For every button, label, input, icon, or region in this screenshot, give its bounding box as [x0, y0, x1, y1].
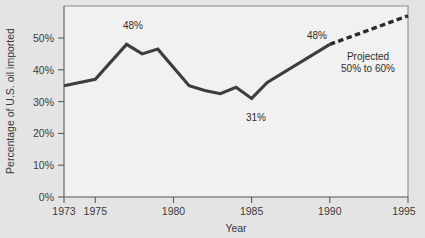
x-tick-label-1980: 1980 — [162, 205, 186, 217]
y-axis-title: Percentage of U.S. oil imported — [4, 28, 16, 174]
x-axis-title: Year — [225, 222, 247, 234]
y-tick-label-30: 30% — [33, 96, 54, 108]
y-tick-label-0: 0% — [39, 191, 54, 203]
x-tick-label-1975: 1975 — [84, 205, 108, 217]
x-tick-label-1990: 1990 — [318, 205, 342, 217]
x-tick-label-1973: 1973 — [52, 205, 76, 217]
line-chart: 0% 10% 20% 30% 40% 50% 1973 1975 1980 19… — [0, 0, 425, 238]
chart-figure: 0% 10% 20% 30% 40% 50% 1973 1975 1980 19… — [0, 0, 425, 238]
peak-1977-label: 48% — [123, 20, 143, 31]
low-1985-label: 31% — [246, 112, 266, 123]
y-tick-label-20: 20% — [33, 127, 54, 139]
value-1990-label: 48% — [307, 30, 327, 41]
projected-label-line2: 50% to 60% — [341, 63, 395, 74]
x-tick-label-1995: 1995 — [392, 205, 416, 217]
x-tick-label-1985: 1985 — [240, 205, 264, 217]
y-tick-label-40: 40% — [33, 64, 54, 76]
y-tick-label-50: 50% — [33, 32, 54, 44]
projected-label-line1: Projected — [347, 51, 389, 62]
y-tick-label-10: 10% — [33, 159, 54, 171]
